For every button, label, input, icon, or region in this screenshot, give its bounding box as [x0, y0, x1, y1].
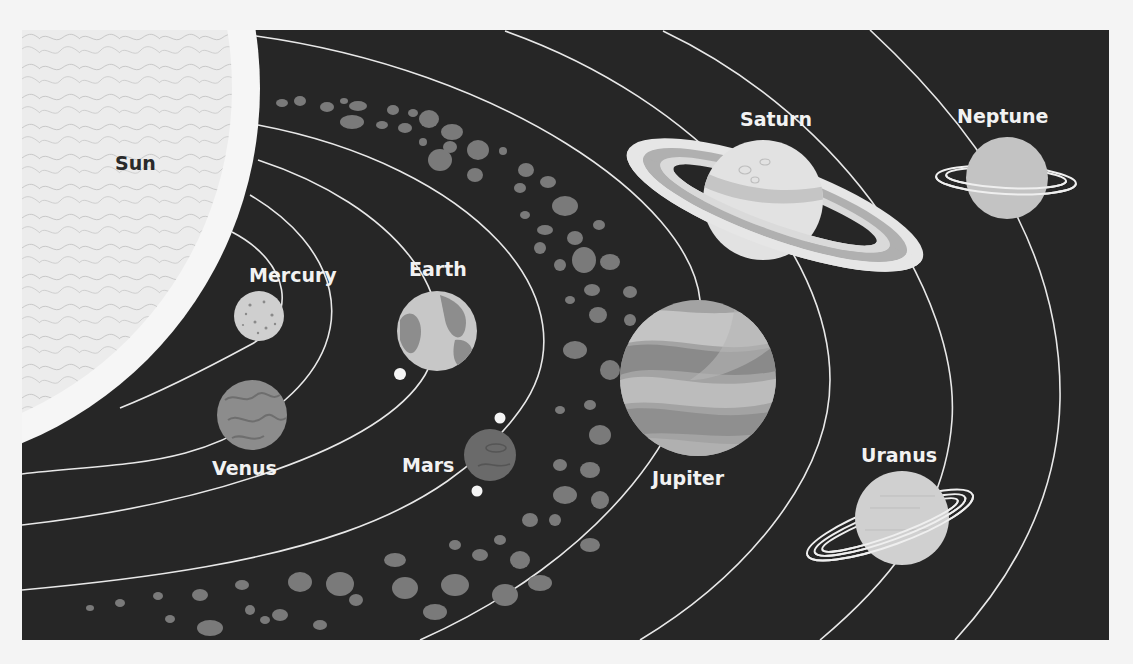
asteroid [522, 513, 538, 527]
asteroid [467, 140, 489, 160]
asteroid [589, 425, 611, 445]
asteroid [623, 286, 637, 298]
asteroid [153, 592, 163, 600]
asteroid [600, 360, 620, 380]
label-saturn: Saturn [740, 108, 812, 130]
asteroid [398, 123, 412, 133]
venus [217, 380, 287, 450]
asteroid [549, 514, 561, 526]
asteroid [340, 115, 364, 129]
asteroid [419, 110, 439, 128]
asteroid [499, 147, 507, 155]
asteroid [540, 176, 556, 188]
asteroid [591, 491, 609, 509]
asteroid [537, 225, 553, 235]
asteroid [376, 121, 388, 129]
mercury [234, 291, 284, 341]
asteroid [276, 99, 288, 107]
asteroid [555, 406, 565, 414]
asteroid [565, 296, 575, 304]
label-uranus: Uranus [861, 444, 937, 466]
asteroid [554, 259, 566, 271]
asteroid [260, 616, 270, 624]
asteroid [235, 580, 249, 590]
label-mars: Mars [402, 454, 454, 476]
asteroid [392, 577, 418, 599]
asteroid [580, 462, 600, 478]
asteroid [520, 211, 530, 219]
asteroid [567, 231, 583, 245]
asteroid [349, 594, 363, 606]
asteroid [419, 138, 427, 146]
label-mercury: Mercury [249, 264, 337, 286]
asteroid [245, 605, 255, 615]
asteroid [387, 105, 399, 115]
asteroid [294, 96, 306, 106]
moon [394, 368, 406, 380]
asteroid [115, 599, 125, 607]
asteroid [600, 254, 620, 270]
label-sun: Sun [115, 152, 156, 174]
label-venus: Venus [212, 457, 277, 479]
asteroid [428, 149, 452, 171]
asteroid [580, 538, 600, 552]
asteroid [86, 605, 94, 611]
asteroid [349, 101, 367, 111]
moon-phobos [495, 413, 506, 424]
asteroid [467, 168, 483, 182]
asteroid [552, 196, 578, 216]
asteroid [584, 400, 596, 410]
asteroid [492, 584, 518, 606]
asteroid [384, 553, 406, 567]
solar-system-diagram: Sun Mercury Venus Earth Mars Jupiter Sat… [0, 0, 1133, 664]
asteroid [472, 549, 488, 561]
asteroid [510, 551, 530, 569]
asteroid [326, 572, 354, 596]
asteroid [313, 620, 327, 630]
asteroid [494, 535, 506, 545]
asteroid [423, 604, 447, 620]
asteroid [288, 572, 312, 592]
asteroid [441, 124, 463, 140]
asteroid [593, 220, 605, 230]
asteroid [518, 163, 534, 177]
asteroid [320, 102, 334, 112]
label-neptune: Neptune [957, 105, 1048, 127]
asteroid [563, 341, 587, 359]
asteroid [572, 247, 596, 273]
asteroid [272, 609, 288, 621]
asteroid [197, 620, 223, 636]
asteroid [449, 540, 461, 550]
asteroid [514, 183, 526, 193]
asteroid [441, 574, 469, 596]
asteroid [340, 98, 348, 104]
asteroid [528, 575, 552, 591]
asteroid [408, 109, 418, 117]
asteroid [589, 307, 607, 323]
label-earth: Earth [409, 258, 467, 280]
moon-deimos [472, 486, 483, 497]
asteroid [584, 284, 600, 296]
asteroid [553, 486, 577, 504]
asteroid [624, 314, 636, 326]
asteroid [553, 459, 567, 471]
asteroid [192, 589, 208, 601]
asteroid [165, 615, 175, 623]
label-jupiter: Jupiter [650, 467, 725, 489]
asteroid [534, 242, 546, 254]
